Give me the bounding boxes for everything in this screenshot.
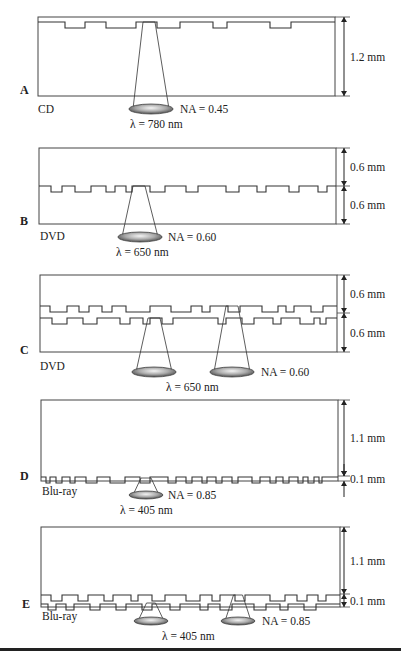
arrow-down-icon <box>341 219 347 224</box>
data-layer-1 <box>38 22 335 28</box>
disc-format-label: DVD <box>40 360 65 372</box>
arrow-down-icon <box>341 181 347 186</box>
arrow-up-icon <box>341 313 347 318</box>
panel-letter: E <box>22 597 30 611</box>
panel-letter: A <box>20 83 29 97</box>
thickness-label: 1.1 mm <box>350 555 385 567</box>
disc-format-label: DVD <box>40 230 65 242</box>
numerical-aperture-label: NA = 0.60 <box>168 231 217 243</box>
panel-letter: B <box>20 214 28 228</box>
thickness-label: 1.1 mm <box>350 432 385 444</box>
disc-substrate <box>39 148 336 224</box>
lens-icon <box>118 232 162 242</box>
numerical-aperture-label: NA = 0.85 <box>262 615 311 627</box>
arrow-down-icon <box>341 91 347 96</box>
laser-beam-cone <box>122 186 158 237</box>
thickness-label: 1.2 mm <box>350 51 385 63</box>
disc-format-label: Blu-ray <box>42 485 77 498</box>
thickness-label: 0.6 mm <box>350 161 385 173</box>
lens-icon <box>132 367 176 377</box>
lens-icon <box>210 367 254 377</box>
disc-substrate <box>38 17 335 96</box>
data-layer-1 <box>41 595 340 601</box>
arrow-up-icon <box>341 17 347 22</box>
data-layer-1 <box>41 477 338 483</box>
arrow-up-icon <box>341 527 347 532</box>
optical-disc-diagram: 1.2 mmACDNA = 0.45λ = 780 nm0.6 mm0.6 mm… <box>0 0 401 651</box>
arrow-up-icon <box>341 148 347 153</box>
arrow-down-icon <box>341 589 347 594</box>
lens-icon <box>129 491 163 499</box>
thickness-label: 0.6 mm <box>350 199 385 211</box>
lens-icon <box>134 617 168 625</box>
panel-b: 0.6 mm0.6 mmBDVDNA = 0.60λ = 650 nm <box>20 148 385 258</box>
thickness-label: 0.1 mm <box>350 595 385 607</box>
disc-substrate <box>40 275 337 352</box>
arrow-up-icon <box>341 186 347 191</box>
arrow-up-icon <box>341 594 347 599</box>
panel-d: 1.1 mm0.1 mmDBlu-rayNA = 0.85λ = 405 nm <box>20 400 385 516</box>
lens-icon <box>129 104 173 114</box>
numerical-aperture-label: NA = 0.45 <box>180 103 229 115</box>
panel-e: 1.1 mm0.1 mmEBlu-rayNA = 0.85λ = 405 nm <box>22 527 385 642</box>
arrow-down-icon <box>341 308 347 313</box>
wavelength-label: λ = 650 nm <box>116 246 169 258</box>
lens-icon <box>221 617 255 625</box>
panel-a: 1.2 mmACDNA = 0.45λ = 780 nm <box>20 17 385 130</box>
thickness-label: 0.1 mm <box>350 473 385 485</box>
objective-lens-1 <box>118 186 162 242</box>
arrow-up-icon <box>341 275 347 280</box>
wavelength-label: λ = 405 nm <box>120 504 173 516</box>
wavelength-label: λ = 780 nm <box>130 118 183 130</box>
data-layer-1 <box>39 186 336 192</box>
disc-format-label: CD <box>38 103 54 115</box>
numerical-aperture-label: NA = 0.85 <box>168 489 217 501</box>
objective-lens-1 <box>132 318 176 377</box>
thickness-label: 0.6 mm <box>350 327 385 339</box>
disc-format-label: Blu-ray <box>42 610 77 623</box>
numerical-aperture-label: NA = 0.60 <box>261 366 310 378</box>
arrow-up-icon <box>341 481 347 486</box>
disc-substrate <box>41 400 338 481</box>
arrow-up-icon <box>341 400 347 405</box>
data-layer-2 <box>40 318 337 324</box>
thickness-label: 0.6 mm <box>350 288 385 300</box>
arrow-down-icon <box>341 602 347 607</box>
data-layer-1 <box>40 306 337 312</box>
laser-beam-cone <box>136 318 172 372</box>
panel-c: 0.6 mm0.6 mmCDVDNA = 0.60λ = 650 nm <box>20 275 385 393</box>
arrow-down-icon <box>341 347 347 352</box>
objective-lens-1 <box>134 603 168 625</box>
panel-letter: D <box>20 469 29 483</box>
arrow-down-icon <box>341 471 347 476</box>
objective-lens-1 <box>129 22 173 114</box>
wavelength-label: λ = 650 nm <box>166 381 219 393</box>
objective-lens-2 <box>210 306 254 377</box>
wavelength-label: λ = 405 nm <box>162 630 215 642</box>
panel-letter: C <box>20 343 29 357</box>
laser-beam-cone <box>214 306 250 372</box>
